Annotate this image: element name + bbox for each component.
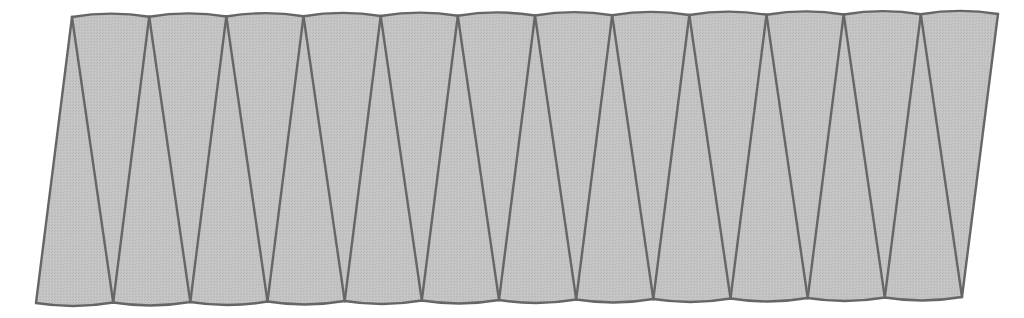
- zigzag-strip-diagram: [0, 0, 1024, 318]
